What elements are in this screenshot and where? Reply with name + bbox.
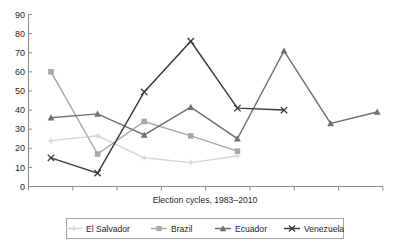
series-layer xyxy=(48,38,381,176)
y-axis-tick-labels: 0102030405060708090 xyxy=(15,10,25,192)
series-brazil xyxy=(48,69,240,157)
data-point-triangle-marker xyxy=(374,109,381,115)
data-point-plus-marker xyxy=(95,133,101,139)
series-venezuela xyxy=(48,38,287,176)
y-tick-label: 70 xyxy=(15,48,25,58)
data-point-triangle-marker xyxy=(281,47,288,53)
y-tick-label: 80 xyxy=(15,29,25,39)
data-point-cross-marker xyxy=(188,38,194,44)
legend-label: Brazil xyxy=(171,224,193,234)
data-point-square-marker xyxy=(188,133,194,139)
y-tick-label: 50 xyxy=(15,86,25,96)
data-point-plus-marker xyxy=(141,155,147,161)
y-tick-label: 20 xyxy=(15,143,25,153)
y-tick-label: 10 xyxy=(15,163,25,173)
data-point-square-marker xyxy=(48,69,54,75)
legend-label: Venezuela xyxy=(304,224,344,234)
y-tick-label: 0 xyxy=(20,182,25,192)
y-tick-label: 40 xyxy=(15,105,25,115)
data-point-square-marker xyxy=(235,148,241,154)
series-line xyxy=(51,41,284,173)
data-point-square-marker xyxy=(156,226,161,231)
series-el-salvador xyxy=(48,133,240,166)
data-point-plus-marker xyxy=(188,160,194,166)
data-point-plus-marker xyxy=(48,138,54,144)
data-point-square-marker xyxy=(141,119,147,125)
line-chart: 0102030405060708090 Election cycles, 198… xyxy=(0,0,407,246)
data-point-triangle-marker xyxy=(187,104,194,110)
data-point-square-marker xyxy=(95,151,101,157)
x-axis-tick-marks xyxy=(29,187,383,191)
data-point-cross-marker xyxy=(141,89,147,95)
legend-label: Ecuador xyxy=(235,224,267,234)
chart-canvas: 0102030405060708090 Election cycles, 198… xyxy=(0,0,407,246)
legend-label: El Salvador xyxy=(86,224,130,234)
series-line xyxy=(51,72,237,154)
x-axis-title: Election cycles, 1983–2010 xyxy=(153,195,258,205)
y-tick-label: 30 xyxy=(15,124,25,134)
y-tick-label: 90 xyxy=(15,10,25,20)
series-ecuador xyxy=(48,47,381,141)
y-tick-label: 60 xyxy=(15,67,25,77)
